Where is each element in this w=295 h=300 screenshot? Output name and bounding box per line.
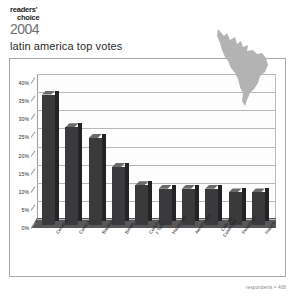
y-axis-tick-label: 25% (19, 134, 29, 140)
y-axis-tick-label: 30% (19, 116, 29, 122)
bar-front-face (89, 138, 102, 225)
bar (112, 158, 125, 225)
bar-front-face (135, 185, 148, 225)
readers-choice-logo: readers' choice 2004 (10, 6, 40, 36)
bar-side-face (265, 188, 269, 221)
bar (65, 118, 78, 225)
bar-side-face (102, 134, 106, 221)
y-axis-tick-label: 5% (22, 207, 30, 213)
y-axis-tick-label: 20% (19, 153, 29, 159)
y-axis: 0%5%10%15%20%25%30%35%40% (8, 74, 29, 228)
bar-front-face (42, 95, 55, 226)
bar-side-face (218, 185, 222, 221)
x-axis: CervezaCoronaBacardiBimboConcha y ToroHa… (31, 232, 283, 288)
bar-side-face (172, 185, 176, 221)
bar (159, 180, 172, 225)
y-axis-tick-label: 40% (19, 80, 29, 86)
bar (135, 176, 148, 225)
bar-front-face (65, 127, 78, 225)
bar-side-face (148, 181, 152, 221)
bar-side-face (195, 185, 199, 221)
y-axis-tick-label: 10% (19, 189, 29, 195)
bar-front-face (112, 167, 125, 225)
bar (42, 86, 55, 226)
logo-year-text: 2004 (10, 22, 40, 36)
bar-side-face (78, 123, 82, 221)
logo-choice-text: choice (17, 14, 40, 22)
y-axis-tick-label: 15% (19, 171, 29, 177)
bar-side-face (125, 163, 129, 221)
chart-title: latin america top votes (10, 40, 122, 52)
bar (89, 129, 102, 225)
bar-side-face (242, 188, 246, 221)
y-axis-tick-label: 0% (22, 225, 30, 231)
bar-side-face (55, 91, 59, 222)
bar-front-face (159, 189, 172, 225)
y-axis-tick-label: 35% (19, 98, 29, 104)
bars-layer (31, 74, 276, 228)
